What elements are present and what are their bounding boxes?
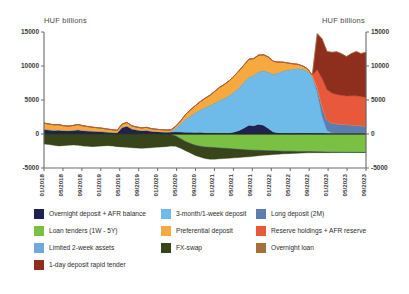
x-axis-tick: 01/2021 (208, 173, 215, 196)
chart-container: HUF billions HUF billions 15000150001000… (0, 0, 409, 294)
x-axis-tick: 09/2021 (246, 173, 253, 196)
chart-legend: Overnight deposit + AFR balance3-month/1… (34, 209, 394, 289)
x-axis-tick: 01/2022 (265, 173, 272, 196)
y-axis-tick-left: -5000 (22, 164, 39, 171)
legend-label: Loan tenders (1W - 5Y) (49, 226, 118, 236)
x-axis-tick: 01/2018 (38, 173, 45, 196)
y-axis-tick-right: 10000 (371, 62, 389, 69)
legend-item[interactable]: 3-month/1-week deposit (161, 209, 246, 219)
legend-label: FX-swap (176, 243, 202, 253)
legend-item[interactable]: 1-day deposit rapid tender (34, 260, 126, 270)
legend-item[interactable]: Loan tenders (1W - 5Y) (34, 226, 118, 236)
legend-item[interactable]: FX-swap (161, 243, 202, 253)
legend-item[interactable]: Limited 2-week assets (34, 243, 114, 253)
legend-item[interactable]: Overnight loan (256, 243, 314, 253)
legend-label: Preferential deposit (176, 226, 233, 236)
legend-color-swatch (161, 226, 171, 236)
legend-label: 3-month/1-week deposit (176, 209, 246, 219)
legend-label: Long deposit (2M) (271, 209, 324, 219)
legend-item[interactable]: Long deposit (2M) (256, 209, 324, 219)
x-axis-tick: 01/2023 (322, 173, 329, 196)
legend-color-swatch (256, 243, 266, 253)
legend-color-swatch (161, 209, 171, 219)
x-axis-tick: 09/2019 (133, 173, 140, 196)
legend-color-swatch (161, 243, 171, 253)
legend-color-swatch (256, 226, 266, 236)
legend-item[interactable]: Preferential deposit (161, 226, 233, 236)
legend-label: Overnight loan (271, 243, 314, 253)
x-axis-tick: 05/2022 (284, 173, 291, 196)
x-axis-tick: 09/2023 (360, 173, 367, 196)
legend-label: Reserve holdings + AFR reserve (271, 226, 366, 236)
y-axis-tick-right: 15000 (371, 28, 389, 35)
x-axis-tick: 09/2022 (303, 173, 310, 196)
y-axis-tick-left: 5000 (25, 96, 40, 103)
legend-item[interactable]: Overnight deposit + AFR balance (34, 209, 146, 219)
x-axis-tick: 05/2021 (227, 173, 234, 196)
y-axis-tick-left: 15000 (21, 28, 39, 35)
x-axis-tick: 01/2020 (152, 173, 159, 196)
legend-item[interactable]: Reserve holdings + AFR reserve (256, 226, 366, 236)
legend-color-swatch (34, 209, 44, 219)
legend-label: Overnight deposit + AFR balance (49, 209, 146, 219)
y-axis-tick-left: 0 (35, 130, 39, 137)
x-axis-tick: 09/2018 (76, 173, 83, 196)
legend-label: 1-day deposit rapid tender (49, 260, 126, 270)
legend-label: Limited 2-week assets (49, 243, 114, 253)
x-axis-tick: 09/2020 (190, 173, 197, 196)
y-axis-tick-left: 10000 (21, 62, 39, 69)
x-axis-tick: 05/2023 (341, 173, 348, 196)
y-axis-tick-right: 5000 (371, 96, 386, 103)
x-axis-tick: 05/2020 (171, 173, 178, 196)
legend-color-swatch (34, 260, 44, 270)
y-axis-tick-right: -5000 (371, 164, 388, 171)
x-axis-tick: 01/2019 (95, 173, 102, 196)
legend-color-swatch (256, 209, 266, 219)
legend-color-swatch (34, 243, 44, 253)
legend-color-swatch (34, 226, 44, 236)
y-axis-tick-right: 0 (371, 130, 375, 137)
x-axis-tick: 05/2018 (57, 173, 64, 196)
x-axis-tick: 05/2019 (114, 173, 121, 196)
